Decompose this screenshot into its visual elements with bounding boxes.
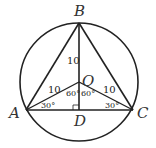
angle-COD: 60° bbox=[81, 89, 95, 98]
label-B: B bbox=[73, 2, 85, 20]
angle-AOD: 60° bbox=[66, 89, 80, 98]
length-OA: 10 bbox=[48, 84, 61, 95]
length-OC: 10 bbox=[103, 84, 116, 95]
label-A: A bbox=[7, 104, 20, 122]
label-O: O bbox=[82, 72, 94, 90]
label-D: D bbox=[73, 112, 86, 130]
geometry-diagram: B O A C D 10 10 10 30° 30° 60° 60° bbox=[0, 0, 156, 148]
angle-OCD: 30° bbox=[105, 101, 119, 110]
label-C: C bbox=[137, 104, 149, 122]
angle-OAD: 30° bbox=[41, 101, 55, 110]
length-OB: 10 bbox=[67, 55, 80, 66]
